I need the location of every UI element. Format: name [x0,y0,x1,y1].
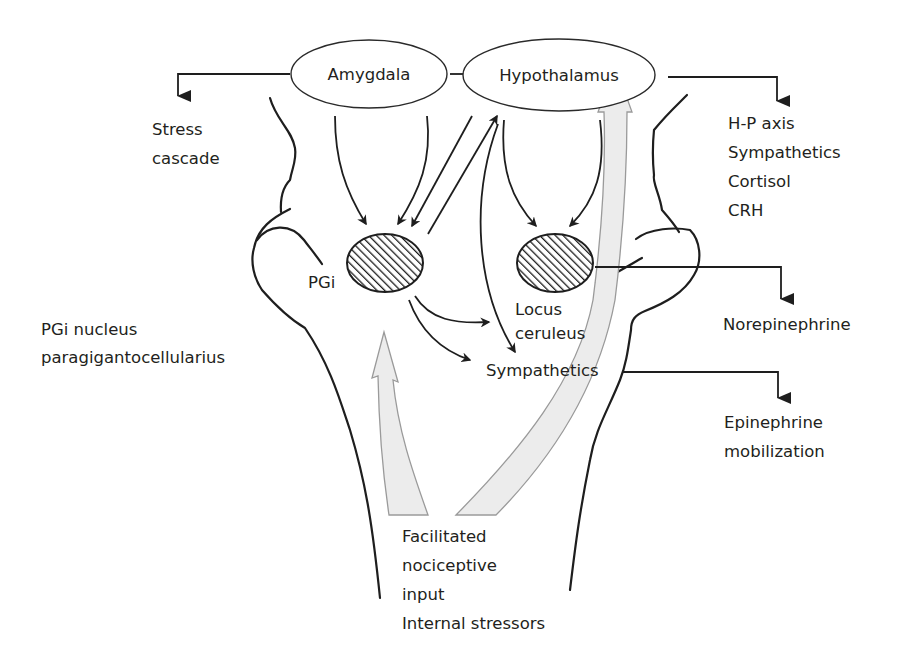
sympathetics-label: Sympathetics [486,361,599,380]
brainstem-outline [252,95,699,598]
amygdala-node: Amygdala [291,40,447,108]
pgi-definition-line1: PGi nucleus [41,320,137,339]
pgi-definition-line2: paragigantocellularius [41,348,225,367]
crh-label: CRH [728,201,763,220]
locus-ceruleus-label-line2: ceruleus [515,324,585,343]
nociceptive-input-arrow-to-pgi [372,332,428,515]
cortisol-label: Cortisol [728,172,791,191]
input-label-line4: Internal stressors [402,614,545,633]
epinephrine-label-line2: mobilization [724,442,825,461]
hypothalamus-node: Hypothalamus [463,39,655,111]
epinephrine-connector [622,372,778,398]
hp-axis-label: H-P axis [728,114,795,133]
norepinephrine-label: Norepinephrine [723,315,851,334]
input-label-line2: nociceptive [402,556,497,575]
pgi-label: PGi [308,273,335,292]
input-label-line1: Facilitated [402,527,487,546]
hypothalamus-label: Hypothalamus [499,66,619,85]
pgi-nucleus [347,234,423,292]
epinephrine-label-line1: Epinephrine [724,413,823,432]
sympathetics-output-label: Sympathetics [728,143,841,162]
stress-cascade-label-line1: Stress [152,120,203,139]
locus-ceruleus-nucleus [517,234,593,292]
stress-pathway-diagram: Amygdala Hypothalamus PGi Locus ceruleus… [0,0,903,668]
input-label-line3: input [402,585,445,604]
stress-cascade-label-line2: cascade [152,149,220,168]
stress-cascade-connector [178,74,290,96]
locus-ceruleus-label-line1: Locus [515,300,562,319]
amygdala-label: Amygdala [328,65,411,84]
